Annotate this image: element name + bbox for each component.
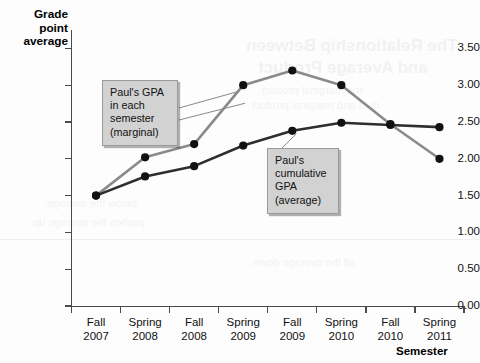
data-point xyxy=(337,119,345,127)
annotation-leader-line xyxy=(179,103,245,120)
data-point xyxy=(190,140,198,148)
data-point xyxy=(435,155,443,163)
data-point xyxy=(386,121,394,129)
data-point xyxy=(337,81,345,89)
chart-figure: The Relationship Between and Average Pro… xyxy=(0,0,480,363)
annotation-line: semester xyxy=(110,112,170,125)
annotation-line: GPA xyxy=(275,180,331,193)
data-point xyxy=(141,172,149,180)
data-point xyxy=(239,141,247,149)
annotation-line: (average) xyxy=(275,194,331,207)
data-point xyxy=(190,162,198,170)
annotation-line: Paul's GPA xyxy=(110,86,170,99)
annotation-line: in each xyxy=(110,99,170,112)
annotation-marginal: Paul's GPAin eachsemester(marginal) xyxy=(102,80,178,146)
data-point xyxy=(435,123,443,131)
plot-area xyxy=(0,0,480,363)
data-point xyxy=(288,66,296,74)
data-point xyxy=(239,81,247,89)
data-point xyxy=(92,192,100,200)
data-point xyxy=(288,127,296,135)
annotation-line: cumulative xyxy=(275,167,331,180)
annotation-line: (marginal) xyxy=(110,126,170,139)
annotation-cumulative: Paul'scumulativeGPA(average) xyxy=(267,148,339,214)
annotation-line: Paul's xyxy=(275,154,331,167)
data-point xyxy=(141,153,149,161)
